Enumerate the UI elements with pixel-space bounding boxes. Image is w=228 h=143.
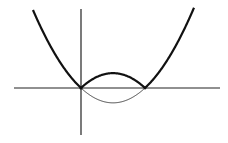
function-plot	[0, 0, 228, 143]
absolute-value-parabola	[33, 8, 194, 88]
origin-point	[79, 86, 82, 89]
root-point	[144, 87, 147, 90]
reflected-parabola-segment	[81, 88, 145, 103]
